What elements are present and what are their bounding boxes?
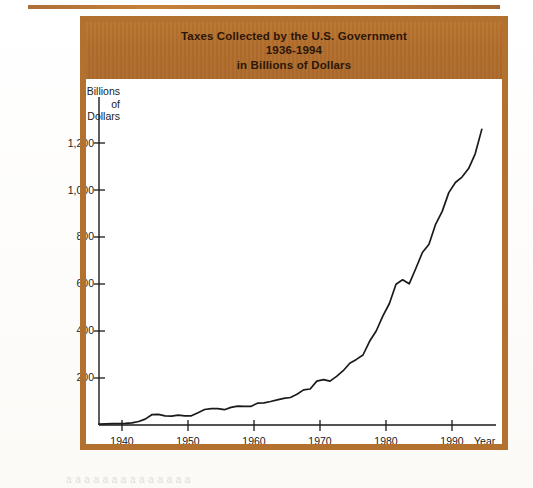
chart-title-line-1: Taxes Collected by the U.S. Government [181, 29, 407, 44]
chart-canvas [86, 79, 502, 444]
page-cutoff-text: a a a a a a a a a a a a a a [66, 474, 486, 484]
chart-title-line-3: in Billions of Dollars [237, 58, 351, 73]
series-line-taxes-collected [99, 129, 482, 424]
page-top-rule [28, 5, 500, 9]
figure-panel: Taxes Collected by the U.S. Government 1… [80, 16, 508, 450]
chart-title-band: Taxes Collected by the U.S. Government 1… [86, 22, 502, 79]
plot-area: Billions of Dollars 1,200 1,000 800 600 … [86, 79, 502, 444]
chart-title-line-2: 1936-1994 [266, 43, 322, 58]
